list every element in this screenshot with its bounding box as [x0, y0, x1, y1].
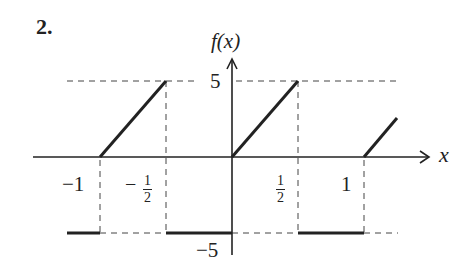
x-tick-1: 1 [341, 172, 352, 197]
y-tick-neg5: −5 [196, 238, 218, 263]
x-axis-label: x [439, 142, 449, 168]
y-tick-5: 5 [210, 69, 221, 94]
y-axis-label: f(x) [211, 29, 240, 54]
x-tick-neg-half: 1 2 [143, 174, 152, 205]
x-tick-neg1: −1 [62, 172, 84, 197]
x-tick-half: 1 2 [276, 174, 285, 205]
x-tick-neg-half-sign: − [125, 173, 136, 196]
axes [33, 59, 429, 255]
